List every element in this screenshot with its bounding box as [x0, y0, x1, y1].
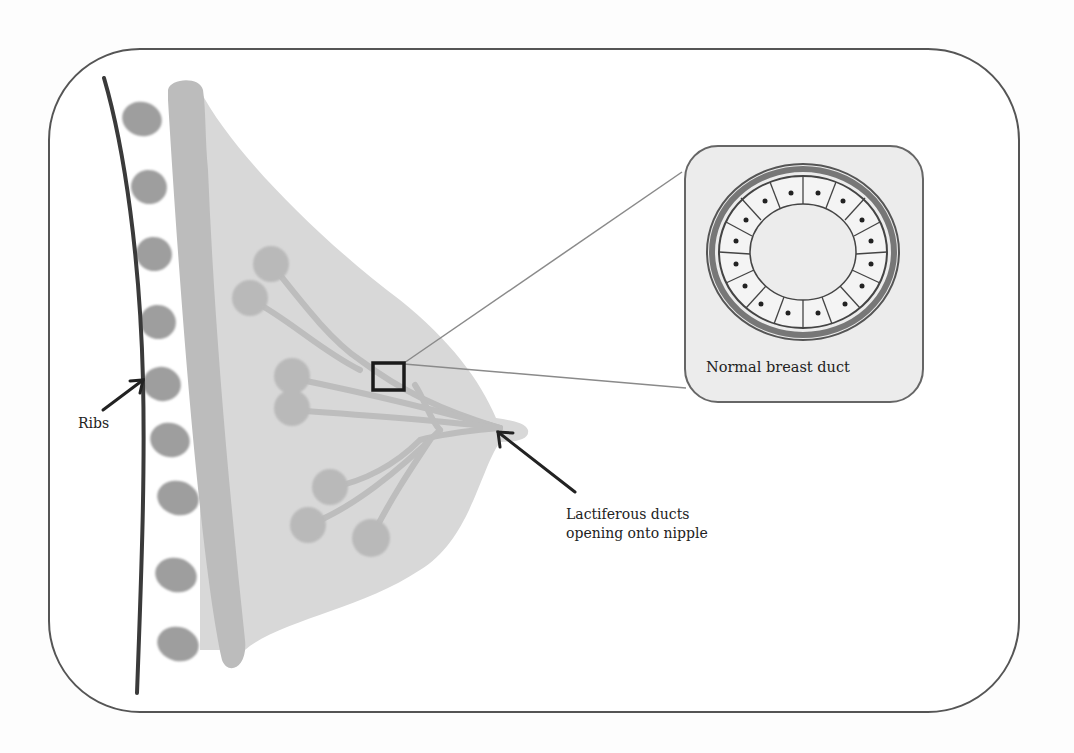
duct-cross-section	[0, 0, 1074, 753]
ducts-label-line1: Lactiferous ducts	[566, 505, 708, 524]
ducts-label-line2: opening onto nipple	[566, 524, 708, 543]
inset-label: Normal breast duct	[706, 358, 850, 377]
ducts-label: Lactiferous ducts opening onto nipple	[566, 505, 708, 543]
ribs-label: Ribs	[78, 414, 109, 433]
